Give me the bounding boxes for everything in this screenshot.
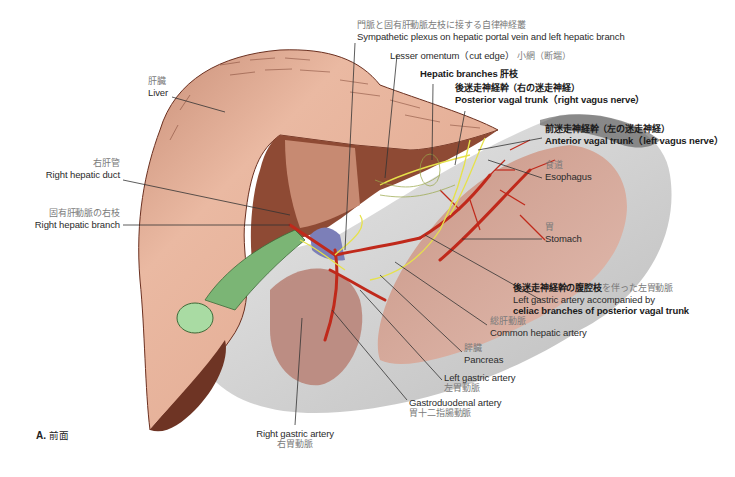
label-en: Left gastric artery accompanied by <box>513 294 689 305</box>
label-en: Stomach <box>545 233 582 244</box>
label-left-gastric-artery: Left gastric artery 左胃動脈 <box>444 372 516 394</box>
label-jp: 右胃動脈 <box>225 439 365 450</box>
label-en-bold: celiac branches of posterior vagal trunk <box>513 305 689 316</box>
label-hepatic-branches: Hepatic branches 肝枝 <box>420 68 518 80</box>
label-right-hepatic-branch: 固有肝動脈の右枝 Right hepatic branch <box>20 208 120 230</box>
label-en: Gastroduodenal artery <box>409 397 501 408</box>
anatomical-illustration <box>0 0 735 477</box>
label-en: Liver <box>148 87 168 98</box>
label-jp: 門脈と固有肝動脈左枝に接する自律神経叢 <box>357 20 625 31</box>
label-en: Hepatic branches <box>420 68 498 79</box>
label-sympathetic-plexus: 門脈と固有肝動脈左枝に接する自律神経叢 Sympathetic plexus o… <box>357 20 625 42</box>
label-jp: 前迷走神経幹（左の迷走神経） <box>545 124 724 135</box>
label-gastroduodenal-artery: Gastroduodenal artery 胃十二指腸動脈 <box>409 397 501 419</box>
label-posterior-vagal-trunk: 後迷走神経幹（右の迷走神経） Posterior vagal trunk（rig… <box>455 83 645 105</box>
label-jp: 肝臓 <box>148 76 168 87</box>
label-jp: 総肝動脈 <box>490 316 587 327</box>
label-jp: 胃 <box>545 222 582 233</box>
label-jp: 後迷走神経幹（右の迷走神経） <box>455 83 645 94</box>
caption-text: 前面 <box>49 430 69 441</box>
label-esophagus: 食道 Esophagus <box>545 160 592 182</box>
label-left-gastric-celiac: 後迷走神経幹の腹腔枝を伴った左胃動脈 Left gastric artery a… <box>513 282 689 316</box>
label-en: Right gastric artery <box>225 428 365 439</box>
label-lesser-omentum: Lesser omentum（cut edge） 小網（断端） <box>390 50 571 62</box>
label-jp: 左胃動脈 <box>444 383 516 394</box>
label-jp: 肝枝 <box>500 69 518 79</box>
label-en: Common hepatic artery <box>490 327 587 338</box>
label-en: Posterior vagal trunk（right vagus nerve） <box>455 94 645 105</box>
label-right-hepatic-duct: 右肝管 Right hepatic duct <box>20 158 120 180</box>
figure-caption: A. 前面 <box>36 428 69 442</box>
label-jp: 食道 <box>545 160 592 171</box>
label-en: Esophagus <box>545 171 592 182</box>
label-en: Pancreas <box>464 354 503 365</box>
label-anterior-vagal-trunk: 前迷走神経幹（左の迷走神経） Anterior vagal trunk（left… <box>545 124 724 146</box>
label-liver: 肝臓 Liver <box>148 76 168 98</box>
caption-letter: A. <box>36 430 46 441</box>
label-jp: 胃十二指腸動脈 <box>409 408 501 419</box>
label-common-hepatic-artery: 総肝動脈 Common hepatic artery <box>490 316 587 338</box>
label-jp-bold: 後迷走神経幹の腹腔枝 <box>513 283 602 293</box>
anatomy-figure: 門脈と固有肝動脈左枝に接する自律神経叢 Sympathetic plexus o… <box>0 0 735 477</box>
label-en: Sympathetic plexus on hepatic portal vei… <box>357 31 625 42</box>
label-right-gastric-artery: Right gastric artery 右胃動脈 <box>225 428 365 450</box>
gallbladder <box>177 303 213 333</box>
label-jp: 膵臓 <box>464 343 503 354</box>
label-en: Anterior vagal trunk（left vagus nerve） <box>545 135 724 146</box>
label-en: Lesser omentum（cut edge） <box>390 50 515 61</box>
label-en: Right hepatic branch <box>20 219 120 230</box>
label-en: Right hepatic duct <box>20 169 120 180</box>
label-jp: を伴った左胃動脈 <box>602 283 673 293</box>
label-jp: 右肝管 <box>20 158 120 169</box>
label-jp: 固有肝動脈の右枝 <box>20 208 120 219</box>
label-en: Left gastric artery <box>444 372 516 383</box>
label-pancreas: 膵臓 Pancreas <box>464 343 503 365</box>
label-stomach: 胃 Stomach <box>545 222 582 244</box>
label-jp: 小網（断端） <box>517 51 570 61</box>
